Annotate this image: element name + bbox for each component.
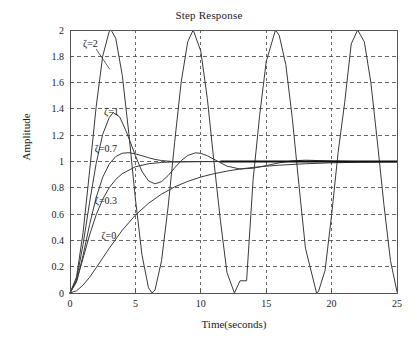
x-tick-label: 0: [68, 298, 73, 309]
y-tick-label: 0.6: [52, 209, 65, 220]
y-tick-label: 1: [59, 156, 64, 167]
x-tick-label: 5: [133, 298, 138, 309]
y-tick-label: 1.8: [52, 51, 65, 62]
y-tick-label: 0: [59, 288, 64, 299]
y-tick-label: 2: [59, 25, 64, 36]
y-tick-label: 1.2: [52, 130, 65, 141]
x-tick-label: 10: [196, 298, 206, 309]
y-tick-label: 1.6: [52, 77, 65, 88]
y-tick-label: 0.4: [52, 235, 65, 246]
y-tick-label: 1.4: [52, 103, 65, 114]
zeta-1-label: ζ=1: [104, 106, 119, 118]
y-tick-label: 0.2: [52, 261, 65, 272]
y-tick-label: 0.8: [52, 182, 65, 193]
zeta-0p7-label: ζ=0.7: [95, 143, 117, 155]
step-response-figure: Step Response Amplitude Time(seconds) 05…: [0, 0, 418, 343]
zeta-0-label: ζ=0: [101, 230, 116, 242]
zeta-2-label: ζ=2: [83, 38, 98, 50]
x-tick-label: 15: [261, 298, 271, 309]
x-tick-label: 25: [392, 298, 402, 309]
x-tick-label: 20: [327, 298, 337, 309]
plot-area: 051015202500.20.40.60.811.21.41.61.82 ζ=…: [0, 0, 418, 343]
zeta-0p3-label: ζ=0.3: [95, 195, 117, 207]
